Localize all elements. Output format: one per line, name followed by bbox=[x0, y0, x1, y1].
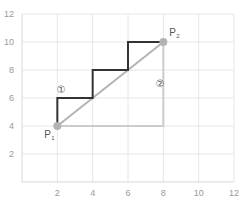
axes: 2468101224681012 bbox=[4, 9, 239, 198]
x-tick-label: 2 bbox=[55, 188, 60, 198]
point-label-p2: P bbox=[169, 27, 176, 38]
point-label-sub: 2 bbox=[176, 33, 180, 39]
x-tick-label: 10 bbox=[194, 188, 204, 198]
path-number-label: ① bbox=[57, 84, 66, 95]
chart: 2468101224681012 P1P2 ①② bbox=[0, 0, 247, 202]
path-number-label: ② bbox=[156, 78, 165, 89]
grid-lines bbox=[22, 14, 234, 182]
point-p2 bbox=[159, 38, 167, 46]
y-tick-label: 10 bbox=[4, 37, 14, 47]
diagonal bbox=[57, 42, 163, 126]
point-label-sub: 1 bbox=[51, 135, 55, 141]
series-lines bbox=[57, 42, 163, 126]
x-tick-label: 8 bbox=[161, 188, 166, 198]
y-tick-label: 4 bbox=[9, 121, 14, 131]
point-p1 bbox=[53, 122, 61, 130]
y-tick-label: 2 bbox=[9, 149, 14, 159]
x-tick-label: 4 bbox=[90, 188, 95, 198]
x-tick-label: 6 bbox=[125, 188, 130, 198]
y-tick-label: 8 bbox=[9, 65, 14, 75]
x-tick-label: 12 bbox=[229, 188, 239, 198]
annotations: ①② bbox=[57, 78, 165, 95]
y-tick-label: 12 bbox=[4, 9, 14, 19]
y-tick-label: 6 bbox=[9, 93, 14, 103]
point-label-p1: P bbox=[44, 129, 51, 140]
